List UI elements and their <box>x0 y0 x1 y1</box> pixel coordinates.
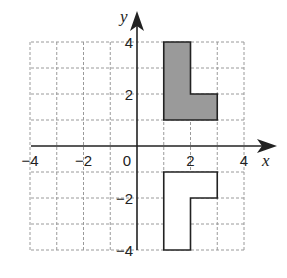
y-tick-label: −4 <box>116 242 133 259</box>
unshaded-L-figure <box>164 172 218 250</box>
x-tick-label: 0 <box>123 152 131 169</box>
y-tick-label: 2 <box>125 86 133 103</box>
x-tick-label: 4 <box>240 152 248 169</box>
x-tick-label: −2 <box>75 152 92 169</box>
x-tick-label: 2 <box>186 152 194 169</box>
shaded-L-figure <box>164 42 218 120</box>
x-tick-label: −4 <box>21 152 38 169</box>
coordinate-grid-diagram: −4−202442−2−4 x y <box>0 0 287 278</box>
axes <box>31 11 277 250</box>
y-axis-label: y <box>118 7 128 26</box>
y-tick-label: −2 <box>116 190 133 207</box>
y-tick-label: 4 <box>125 34 133 51</box>
x-axis-label: x <box>261 151 270 170</box>
